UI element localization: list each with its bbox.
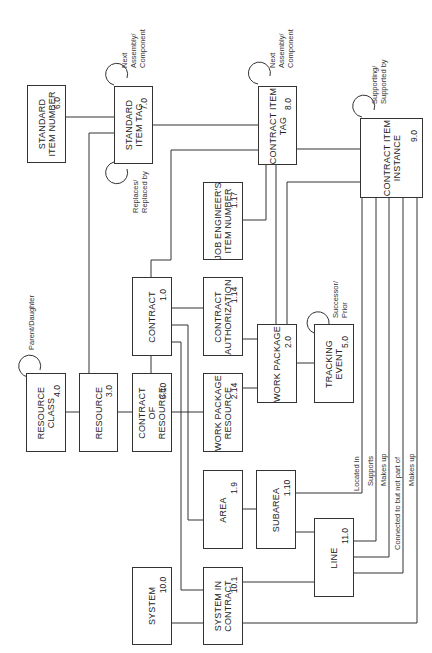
entity-label: WORK PACKAGE xyxy=(272,326,282,402)
entity-label: CONTRACT ITEMINSTANCE xyxy=(382,120,402,196)
entity-contract: CONTRACT 1.0 xyxy=(132,277,172,356)
entity-label: SYSTEM xyxy=(147,587,157,625)
entity-id: 5.0 xyxy=(340,336,350,348)
entity-id: 1.0 xyxy=(158,289,168,301)
entity-id: 2.0 xyxy=(283,336,293,348)
label-connected-to: Connected to but not part of xyxy=(393,457,402,550)
entity-label: RESOURCE xyxy=(94,386,104,439)
entity-contract-authorization: CONTRACTAUTHORIZATION 1.14 xyxy=(203,277,243,356)
entity-id: 1.10 xyxy=(282,480,292,497)
entity-job-engineers-item-number: JOB ENGINEER'SITEM NUMBER 1.17 xyxy=(203,182,243,260)
label-supports: Supports xyxy=(366,456,375,486)
entity-contract-of-resource: CONTRACTOFRESOURCE 3.10 xyxy=(132,373,172,452)
entity-id: 10.1 xyxy=(229,577,239,594)
entity-label: AREA xyxy=(218,497,228,522)
entity-contract-item-instance: CONTRACT ITEMINSTANCE 9.0 xyxy=(360,118,423,198)
label-parent-daughter: Parent/Daughter xyxy=(27,295,36,350)
entity-id: 2.14 xyxy=(229,383,239,400)
entity-id: 10.0 xyxy=(158,577,168,594)
entity-standard-item-tag: STANDARDITEM TAG 7.0 xyxy=(114,86,153,164)
entity-work-package-resource: WORK PACKAGERESOURCE 2.14 xyxy=(203,373,243,452)
entity-area: AREA 1.9 xyxy=(203,470,243,549)
entity-line: LINE 11.0 xyxy=(314,518,354,597)
entity-id: 3.0 xyxy=(104,385,114,397)
entity-label: CONTRACT xyxy=(147,291,157,343)
label-successor-prior: Successor/Prior xyxy=(331,281,349,318)
entity-system: SYSTEM 10.0 xyxy=(132,567,172,645)
entity-label: SUBAREA xyxy=(271,487,281,531)
entity-contract-item-tag: CONTRACT ITEMTAG 8.0 xyxy=(258,86,297,165)
label-std-tag-next-assembly: NextAssembly/Component xyxy=(120,29,147,68)
label-contract-tag-next-assembly: NextAssembly/Component xyxy=(268,29,295,68)
entity-id: 4.0 xyxy=(52,385,62,397)
entity-id: 1.14 xyxy=(229,287,239,304)
entity-resource-class: RESOURCECLASS 4.0 xyxy=(26,373,66,452)
entity-id: 8.0 xyxy=(283,98,293,110)
entity-id: 1.9 xyxy=(229,482,239,494)
label-makes-up-2: Makes up xyxy=(407,453,416,486)
entity-id: 1.17 xyxy=(229,192,239,209)
label-replaces: Replaces/Replaced by xyxy=(131,171,149,213)
entity-tracking-event: TRACKINGEVENT 5.0 xyxy=(314,324,354,403)
label-supporting: Supporting/Supported by xyxy=(370,59,388,104)
label-located-in: Located in xyxy=(352,456,361,491)
entity-standard-item-number: STANDARDITEM NUMBER 6.0 xyxy=(27,85,66,163)
entity-subarea: SUBAREA 1.10 xyxy=(256,470,296,549)
entity-id: 7.0 xyxy=(139,98,149,110)
entity-work-package: WORK PACKAGE 2.0 xyxy=(257,324,297,403)
entity-id: 3.10 xyxy=(158,383,168,400)
entity-system-in-contract: SYSTEM INCONTRACT 10.1 xyxy=(203,567,243,645)
label-makes-up-1: Makes up xyxy=(379,453,388,486)
entity-resource: RESOURCE 3.0 xyxy=(79,373,118,452)
entity-id: 11.0 xyxy=(340,528,350,544)
entity-id: 9.0 xyxy=(409,130,419,142)
entity-label: LINE xyxy=(329,547,339,568)
entity-id: 6.0 xyxy=(52,97,62,109)
